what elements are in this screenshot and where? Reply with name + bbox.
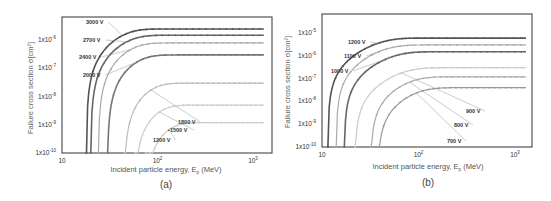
data-point-marker (357, 79, 359, 81)
data-point-marker (387, 95, 389, 97)
data-point-marker (409, 37, 411, 39)
series-line-1100v (336, 45, 526, 147)
data-point-marker (220, 34, 222, 36)
data-point-marker (198, 122, 200, 124)
data-point-marker (241, 54, 243, 56)
data-point-marker (428, 77, 430, 79)
data-point-marker (186, 82, 188, 84)
data-point-marker (194, 34, 196, 36)
data-point-marker (416, 37, 418, 39)
data-point-marker (212, 28, 214, 30)
panel-a-series (86, 28, 264, 154)
data-point-marker (504, 76, 506, 78)
data-point-marker (142, 58, 144, 60)
data-point-marker (483, 37, 485, 39)
panel-a-x-ticks: 10102103 (58, 156, 258, 164)
data-point-marker (221, 104, 223, 106)
data-point-marker (129, 122, 131, 124)
data-point-marker (450, 67, 452, 69)
data-point-marker (197, 82, 199, 84)
y-tick-label: 1x10-8 (38, 92, 57, 100)
data-point-marker (213, 34, 215, 36)
data-point-marker (405, 97, 407, 99)
data-point-marker (418, 51, 420, 53)
panel-b-y-ticks: 1x10-101x10-91x10-81x10-71x10-61x10-5 (295, 28, 316, 150)
data-point-marker (142, 36, 144, 38)
data-point-marker (471, 87, 473, 89)
data-point-marker (97, 152, 99, 154)
data-point-marker (222, 42, 224, 44)
y-tick-label: 1x10-9 (38, 120, 57, 128)
data-point-marker (139, 99, 141, 101)
data-point-marker (207, 104, 209, 106)
panel-a-x-axis-label: Incident particle energy, Ep (MeV) (110, 165, 222, 175)
data-point-marker (245, 104, 247, 106)
data-point-marker (116, 47, 118, 49)
data-point-marker (218, 82, 220, 84)
data-point-marker (422, 77, 424, 79)
data-point-marker (521, 67, 523, 69)
panel-b-caption: (b) (422, 177, 434, 188)
data-point-marker (155, 87, 157, 89)
data-point-marker (463, 67, 465, 69)
voltage-label: 1200 V (348, 39, 366, 45)
data-point-marker (379, 42, 381, 44)
data-point-marker (425, 51, 427, 53)
data-point-marker (508, 67, 510, 69)
data-point-marker (125, 33, 127, 35)
data-point-marker (211, 104, 213, 106)
data-point-marker (252, 34, 254, 36)
data-point-marker (172, 28, 174, 30)
data-point-marker (225, 122, 227, 124)
data-point-marker (476, 37, 478, 39)
data-point-marker (179, 28, 181, 30)
data-point-marker (236, 54, 238, 56)
data-point-marker (144, 129, 146, 131)
data-point-marker (160, 85, 162, 87)
data-point-marker (239, 82, 241, 84)
data-point-marker (110, 68, 112, 70)
voltage-label: 1000 V (331, 68, 349, 74)
data-point-marker (207, 82, 209, 84)
y-tick-label: 1x10-6 (298, 51, 317, 59)
data-point-marker (225, 28, 227, 30)
data-point-marker (463, 44, 465, 46)
data-point-marker (376, 114, 378, 116)
data-point-marker (173, 105, 175, 107)
data-point-marker (489, 67, 491, 69)
data-point-marker (361, 108, 363, 110)
panel-b-chart: 1200 V1100 V1000 V900 V800 V700 V 1x10-1… (283, 14, 532, 188)
data-point-marker (148, 35, 150, 37)
data-point-marker (499, 87, 501, 89)
data-point-marker (438, 87, 440, 89)
data-point-marker (218, 54, 220, 56)
data-point-marker (197, 104, 199, 106)
data-point-marker (457, 67, 459, 69)
data-point-marker (159, 54, 161, 56)
data-point-marker (364, 58, 366, 60)
data-point-marker (516, 87, 518, 89)
data-point-marker (386, 40, 388, 42)
panel-b-voltage-labels: 1200 V1100 V1000 V900 V800 V700 V (331, 39, 485, 144)
data-point-marker (231, 104, 233, 106)
data-point-marker (165, 83, 167, 85)
data-point-marker (254, 82, 256, 84)
x-tick-label: 102 (414, 150, 424, 158)
data-point-marker (412, 69, 414, 71)
data-point-marker (219, 28, 221, 30)
series-line-1500v (135, 105, 264, 153)
data-point-marker (153, 42, 155, 44)
data-point-marker (382, 102, 384, 104)
data-point-marker (197, 42, 199, 44)
panel-b-frame (322, 14, 532, 147)
data-point-marker (385, 48, 387, 50)
y-tick-label: 1x10-6 (38, 35, 57, 43)
x-tick-label: 10 (318, 151, 326, 158)
data-point-marker (260, 122, 262, 124)
data-point-marker (245, 28, 247, 30)
voltage-label: 2000 V (83, 72, 101, 78)
data-point-marker (212, 82, 214, 84)
panel-b-x-ticks: 10102103 (318, 150, 520, 158)
data-point-marker (393, 75, 395, 77)
data-point-marker (207, 34, 209, 36)
